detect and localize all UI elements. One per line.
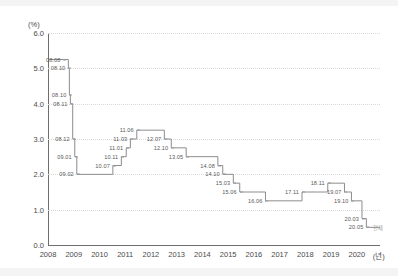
data-point-label: 09.02	[59, 171, 77, 177]
x-axis-tick-label: 2018	[297, 250, 314, 259]
data-point-label: 11.03	[113, 136, 130, 142]
data-point-label: 16.06	[248, 198, 266, 204]
data-point-label: 13.05	[169, 154, 187, 160]
data-point-label: 09.01	[57, 154, 75, 160]
rate-step-polyline	[48, 60, 380, 228]
interest-rate-step-chart: (%) 08.0808.1008.1008.1108.1209.0109.021…	[0, 0, 398, 276]
data-point-label: 14.10	[205, 171, 223, 177]
data-point-tick	[223, 174, 226, 175]
x-axis-line	[48, 245, 380, 246]
x-axis-tick-label: 2016	[246, 250, 263, 259]
rate-step-line	[48, 33, 380, 245]
data-point-label: 11.01	[109, 145, 126, 151]
data-point-tick	[70, 103, 73, 104]
x-axis-unit-label: (년)	[373, 250, 385, 261]
series-end-marker: 현재	[373, 224, 383, 231]
data-point-tick	[186, 156, 189, 157]
data-point-tick	[302, 192, 305, 193]
data-point-label: 12.10	[154, 145, 172, 151]
data-point-label: 19.07	[327, 189, 345, 195]
x-axis-tick-label: 2010	[91, 250, 108, 259]
data-point-label: 08.10	[51, 65, 69, 71]
data-point-tick	[126, 147, 129, 148]
data-point-tick	[233, 183, 236, 184]
y-axis-tick-label: 0.0	[18, 241, 44, 250]
data-point-label: 08.11	[53, 101, 70, 107]
data-point-tick	[362, 218, 365, 219]
y-axis-tick-label: 1.0	[18, 205, 44, 214]
y-axis-tick-label: 4.0	[18, 99, 44, 108]
x-axis-tick-label: 2009	[65, 250, 82, 259]
data-point-label: 14.08	[200, 163, 218, 169]
data-point-tick	[121, 156, 124, 157]
data-point-tick	[77, 174, 80, 175]
x-axis-tick-label: 2015	[220, 250, 237, 259]
data-point-label: 12.07	[147, 136, 165, 142]
data-point-label: 08.12	[55, 136, 73, 142]
data-point-tick	[265, 200, 268, 201]
data-point-tick	[344, 192, 347, 193]
data-point-tick	[171, 147, 174, 148]
data-point-tick	[63, 59, 66, 60]
y-axis-tick-label: 3.0	[18, 135, 44, 144]
data-point-label: 15.06	[222, 189, 240, 195]
data-point-label: 19.10	[334, 198, 352, 204]
y-axis-tick-label: 2.0	[18, 170, 44, 179]
data-point-tick	[68, 68, 71, 69]
y-axis-tick-label: 6.0	[18, 29, 44, 38]
x-axis-tick-label: 2008	[40, 250, 57, 259]
data-point-label: 08.08	[46, 57, 64, 63]
data-point-tick	[130, 139, 133, 140]
x-axis-tick-label: 2014	[194, 250, 211, 259]
data-point-label: 15.03	[216, 180, 234, 186]
data-point-tick	[351, 200, 354, 201]
x-axis-tick-label: 2019	[323, 250, 340, 259]
data-point-label: 20.05	[349, 224, 367, 230]
data-point-label: 08.10	[52, 92, 70, 98]
data-point-tick	[218, 165, 221, 166]
data-point-tick	[69, 94, 72, 95]
page-band-top	[0, 0, 398, 6]
data-point-tick	[75, 156, 78, 157]
data-point-label: 20.03	[344, 216, 362, 222]
data-point-tick	[73, 139, 76, 140]
y-axis-tick-label: 5.0	[18, 64, 44, 73]
data-point-label: 18.11	[311, 180, 328, 186]
data-point-label: 10.07	[95, 163, 113, 169]
data-point-tick	[164, 139, 167, 140]
data-point-label: 10.11	[104, 154, 121, 160]
plot-area: 08.0808.1008.1008.1108.1209.0109.0210.07…	[48, 33, 380, 245]
x-axis-tick-label: 2013	[168, 250, 185, 259]
data-point-tick	[240, 192, 243, 193]
data-point-tick	[328, 183, 331, 184]
data-point-tick	[137, 130, 140, 131]
data-point-tick	[366, 227, 369, 228]
x-axis-tick-label: 2017	[271, 250, 288, 259]
data-point-tick	[113, 165, 116, 166]
data-point-label: 11.06	[120, 127, 137, 133]
data-point-label: 17.11	[285, 189, 302, 195]
page-band-bottom	[0, 268, 398, 276]
x-axis-tick-label: 2011	[117, 250, 133, 259]
x-axis-tick-label: 2020	[348, 250, 365, 259]
x-axis-tick-label: 2012	[143, 250, 160, 259]
